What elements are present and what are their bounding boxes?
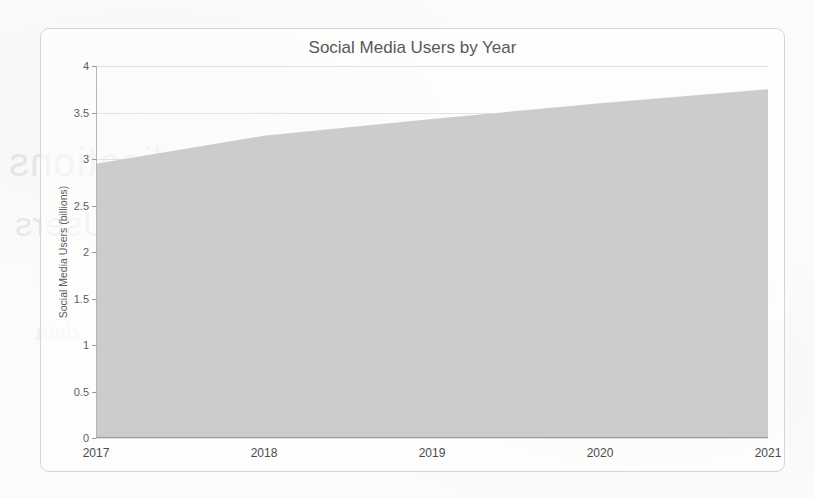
x-axis-tick-label: 2017 (83, 446, 110, 460)
y-axis-tick-mark (92, 113, 96, 114)
y-axis-title: Social Media Users (billions) (55, 66, 71, 438)
chart-card: Social Media Users by Year Social Media … (40, 28, 785, 472)
x-axis-tick-label: 2021 (755, 446, 782, 460)
y-axis-tick-label: 2 (83, 246, 89, 258)
y-axis-tick-mark (92, 392, 96, 393)
y-axis-tick-label: 1.5 (74, 293, 89, 305)
y-axis-tick-mark (92, 299, 96, 300)
plot-frame (96, 66, 768, 438)
y-axis-tick-mark (92, 159, 96, 160)
x-axis-tick-label: 2018 (251, 446, 278, 460)
y-axis-tick-mark (92, 345, 96, 346)
y-axis-tick-label: 0.5 (74, 386, 89, 398)
y-axis-title-label: Social Media Users (billions) (57, 186, 69, 318)
y-axis-tick-label: 2.5 (74, 200, 89, 212)
y-axis-tick-label: 4 (83, 60, 89, 72)
y-axis-tick-mark (92, 206, 96, 207)
y-axis-tick-label: 1 (83, 339, 89, 351)
y-axis-tick-label: 3.5 (74, 107, 89, 119)
y-axis-tick-mark (92, 66, 96, 67)
x-axis-tick-label: 2020 (587, 446, 614, 460)
y-axis-tick-mark (92, 252, 96, 253)
y-axis-tick-label: 0 (83, 432, 89, 444)
y-axis-tick-label: 3 (83, 153, 89, 165)
gridline (96, 438, 768, 439)
x-axis-tick-label: 2019 (419, 446, 446, 460)
y-axis-tick-mark (92, 438, 96, 439)
plot-area: 00.511.522.533.54 20172018201920202021 (96, 66, 768, 438)
chart-title: Social Media Users by Year (41, 38, 784, 58)
